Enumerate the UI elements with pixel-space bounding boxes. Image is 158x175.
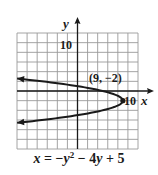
y-axis-arrow-icon [75, 17, 81, 24]
y-tick-label-10: 10 [60, 38, 72, 52]
equation-mid: − 4 [74, 151, 96, 166]
x-axis-arrow-icon [147, 88, 154, 94]
graph: y 10 10 x (9, −2) [0, 0, 158, 175]
x-tick-label-10: 10 [124, 94, 136, 108]
equation-eq: = − [41, 151, 64, 166]
x-axis-label: x [140, 93, 148, 108]
equation-caption: x = −y2 − 4y + 5 [0, 151, 158, 167]
vertex-annotation: (9, −2) [89, 71, 122, 85]
y-axis-label: y [61, 16, 69, 31]
equation-lhs: x [34, 151, 41, 166]
equation-tail: + 5 [102, 151, 124, 166]
